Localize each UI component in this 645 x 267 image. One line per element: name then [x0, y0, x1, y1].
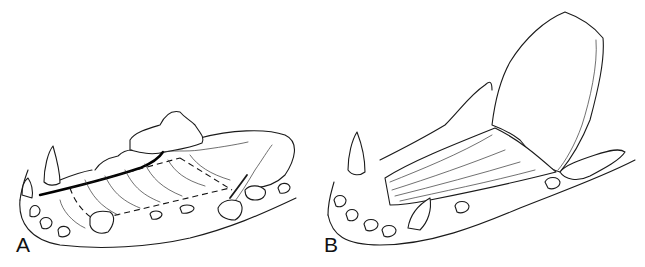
panel-label-b: B: [324, 233, 338, 257]
panel-label-a: A: [16, 233, 30, 257]
panel-b: B: [320, 0, 645, 267]
mandible-illustration-b: [320, 0, 645, 267]
panel-a: A: [0, 0, 320, 267]
mandible-illustration-a: [0, 0, 320, 267]
